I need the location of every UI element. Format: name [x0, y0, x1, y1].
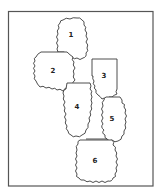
region-3[interactable]: 3 [92, 59, 117, 99]
region-5-label: 5 [110, 115, 115, 123]
region-6[interactable]: 6 [76, 140, 118, 183]
region-6-label: 6 [93, 157, 98, 165]
region-2-label: 2 [51, 67, 56, 75]
region-4[interactable]: 4 [63, 83, 92, 137]
region-diagram: 1 2 3 4 5 6 [0, 0, 158, 191]
region-3-label: 3 [102, 72, 107, 80]
region-5[interactable]: 5 [102, 97, 127, 142]
region-4-label: 4 [75, 103, 80, 111]
region-1-label: 1 [69, 31, 74, 39]
